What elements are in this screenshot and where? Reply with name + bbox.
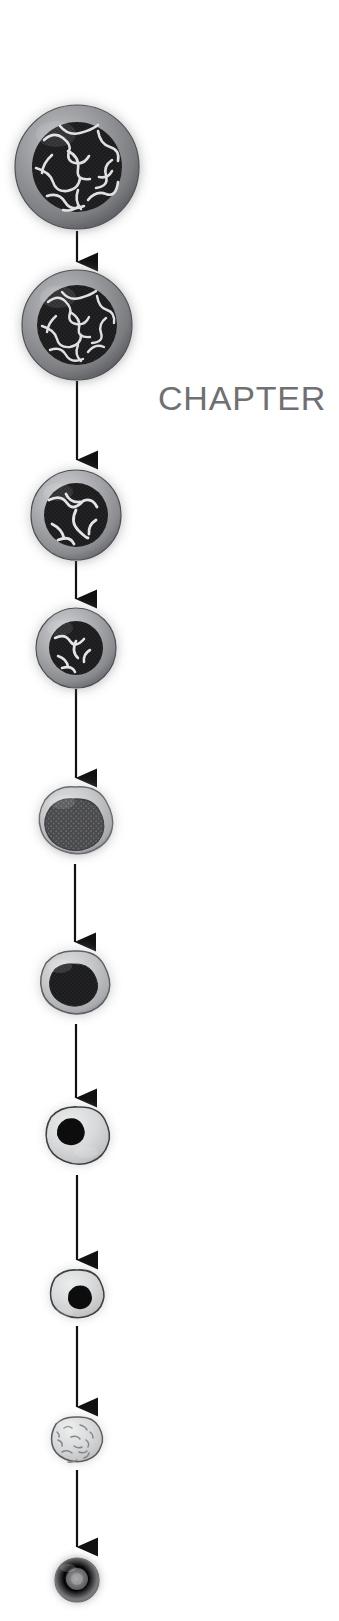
page-root: CHAPTER	[0, 0, 339, 1621]
cell-4-orthochromatic-erythroblast	[36, 608, 116, 688]
cell-7-nucleus-extruding-eccentric	[46, 1107, 109, 1164]
erythropoiesis-diagram	[0, 0, 339, 1621]
cell-2-basophilic-erythroblast	[22, 270, 132, 380]
chapter-label: CHAPTER	[158, 381, 326, 415]
cell-9-reticulocyte	[52, 1417, 103, 1462]
cell-3-polychromatic-erythroblast	[31, 470, 121, 560]
cell-6-late-erythroblast-pyknotic	[41, 951, 110, 1014]
cell-1-proerythroblast	[15, 105, 139, 229]
cell-5-late-erythroblast-condensing	[39, 787, 113, 854]
cell-10-mature-erythrocyte	[55, 1558, 99, 1602]
cell-8-nucleus-extrusion	[51, 1270, 105, 1318]
arrow-connectors	[75, 231, 77, 1547]
